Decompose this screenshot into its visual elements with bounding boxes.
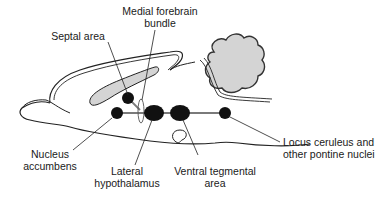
label-vta-line1: Ventral tegmental (170, 165, 260, 177)
nucleus-accumbens (111, 107, 123, 119)
label-lc-line2: other pontine nuclei (283, 148, 375, 160)
label-lateral-hypothalamus: Lateral hypothalamus (92, 165, 162, 189)
cerebellum (206, 34, 265, 92)
septal-area-nucleus (122, 92, 134, 104)
label-septal-area: Septal area (48, 30, 108, 42)
leader-mfb (142, 30, 155, 100)
label-medial-forebrain-bundle: Medial forebrain bundle (120, 5, 200, 29)
cortex-fold (170, 62, 195, 70)
label-lc-line1: Locus ceruleus and (283, 136, 375, 148)
lateral-hypothalamus (144, 105, 164, 121)
brain-outline (20, 102, 310, 146)
ventral-tegmental-area (170, 105, 190, 121)
leader-lateral-hypothalamus (135, 120, 152, 165)
brain-top-outline (50, 51, 183, 103)
label-vta-line2: area (170, 177, 260, 189)
label-ventral-tegmental-area: Ventral tegmental area (170, 165, 260, 189)
label-mfb-line2: bundle (120, 17, 200, 29)
mfb-loop (138, 99, 144, 123)
leader-locus (228, 116, 280, 142)
label-lh-line1: Lateral (92, 165, 162, 177)
label-lh-line2: hypothalamus (92, 177, 162, 189)
label-nucleus-accumbens: Nucleus accumbens (20, 148, 80, 172)
label-accumbens-line2: accumbens (20, 160, 80, 172)
label-accumbens-line1: Nucleus (20, 148, 80, 160)
label-septal-line1: Septal area (48, 30, 108, 42)
label-locus-ceruleus: Locus ceruleus and other pontine nuclei (283, 136, 375, 160)
pituitary (173, 130, 187, 143)
locus-ceruleus (219, 107, 231, 119)
label-mfb-line1: Medial forebrain (120, 5, 200, 17)
